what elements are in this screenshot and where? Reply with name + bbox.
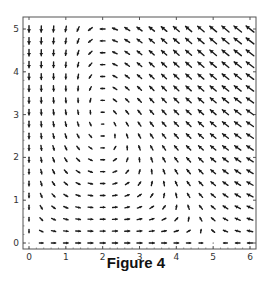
vector-arrow — [137, 218, 142, 221]
vector-arrow — [64, 194, 68, 196]
vector-arrow — [186, 110, 191, 115]
vector-arrow — [125, 63, 129, 66]
vector-arrow — [162, 122, 166, 126]
vector-arrow — [138, 110, 141, 114]
vector-arrow — [247, 229, 252, 232]
vector-arrow — [161, 50, 166, 55]
vector-arrow — [198, 62, 204, 67]
vector-arrow — [187, 205, 190, 209]
vector-arrow — [27, 26, 31, 33]
vector-arrow — [150, 98, 154, 102]
vector-arrow — [125, 194, 129, 197]
vector-arrow — [125, 218, 130, 221]
vector-arrow — [149, 51, 154, 55]
vector-arrow — [210, 50, 217, 56]
vector-arrow — [113, 206, 118, 209]
vector-arrow — [126, 110, 129, 114]
vector-arrow — [112, 27, 117, 30]
vector-arrow — [77, 146, 80, 149]
vector-arrow — [162, 241, 167, 244]
vector-arrow — [76, 194, 80, 197]
vector-arrow — [150, 122, 153, 126]
vector-arrow — [247, 110, 254, 115]
vector-arrow — [126, 170, 129, 173]
vector-arrow — [137, 75, 141, 79]
vector-arrow — [149, 39, 154, 43]
vector-arrow — [113, 87, 117, 89]
vector-arrow — [247, 217, 253, 221]
vector-arrow — [52, 218, 56, 220]
vector-arrow — [125, 51, 130, 54]
vector-arrow — [234, 98, 241, 103]
vector-arrow — [163, 146, 166, 150]
vector-arrow — [150, 158, 153, 162]
vector-arrow — [223, 230, 227, 233]
vector-arrow — [40, 230, 43, 232]
vector-arrow — [100, 206, 105, 209]
vector-arrow — [52, 110, 55, 115]
vector-arrow — [125, 241, 130, 244]
vector-arrow — [211, 170, 216, 174]
vector-arrow — [113, 182, 117, 185]
vector-arrow — [247, 146, 254, 150]
vector-arrow — [65, 146, 68, 150]
vector-arrow — [199, 194, 202, 198]
vector-arrow — [89, 51, 92, 54]
vector-arrow — [235, 182, 241, 186]
vector-arrow — [113, 159, 116, 161]
vector-arrow — [89, 147, 92, 149]
vector-arrow — [138, 122, 141, 126]
vector-arrow — [174, 74, 179, 79]
vector-arrow — [64, 74, 67, 79]
vector-arrow — [223, 158, 228, 162]
vector-arrow — [187, 146, 191, 150]
vector-arrow — [210, 110, 216, 115]
vector-arrow — [187, 181, 190, 185]
vector-arrow — [52, 50, 56, 56]
y-tick-label: 0 — [13, 238, 19, 248]
vector-arrow — [77, 86, 80, 90]
vector-arrow — [52, 38, 56, 44]
vector-arrow — [125, 182, 129, 184]
vector-arrow — [88, 241, 93, 244]
vector-arrow — [150, 146, 153, 150]
vector-arrow — [210, 26, 217, 32]
vector-arrow — [187, 170, 190, 174]
vector-arrow — [186, 86, 191, 91]
vector-arrow — [162, 62, 167, 67]
vector-arrow — [125, 39, 130, 42]
vector-arrow — [151, 181, 154, 185]
vector-arrow — [114, 146, 116, 149]
vector-arrow — [52, 122, 55, 127]
vector-arrow — [39, 86, 43, 92]
vector-arrow — [223, 206, 228, 209]
vector-arrow — [51, 242, 55, 245]
vector-arrow — [187, 193, 190, 197]
vector-arrow — [234, 38, 241, 44]
vector-arrow — [40, 133, 43, 138]
vector-arrow — [39, 26, 43, 32]
vector-arrow — [112, 241, 117, 244]
vector-arrow — [52, 182, 55, 186]
vector-arrow — [40, 218, 43, 221]
vector-arrow — [126, 122, 128, 126]
vector-arrow — [247, 122, 254, 127]
vector-arrow — [64, 122, 67, 127]
vector-arrow — [89, 39, 92, 42]
vector-arrow — [64, 26, 67, 31]
vector-arrow — [210, 122, 216, 127]
vector-arrow — [100, 230, 105, 233]
vector-arrow — [101, 111, 104, 113]
vector-arrow — [125, 87, 129, 90]
vector-arrow — [162, 110, 166, 114]
vector-arrow — [76, 206, 80, 209]
vector-arrow — [174, 62, 179, 67]
vector-arrow — [113, 51, 118, 54]
vector-arrow — [77, 51, 80, 56]
vector-arrow — [137, 63, 141, 67]
vector-arrow — [138, 134, 141, 138]
vector-arrow — [27, 157, 30, 162]
vector-arrow — [64, 230, 68, 233]
vector-arrow — [235, 218, 240, 221]
vector-arrow — [234, 26, 242, 32]
